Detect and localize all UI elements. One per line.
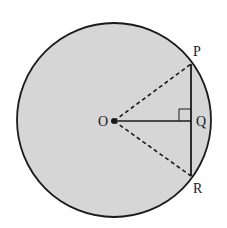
- circle-chord-diagram: O P Q R: [0, 0, 227, 228]
- label-o: O: [98, 114, 108, 129]
- label-q: Q: [196, 114, 206, 129]
- label-p: P: [193, 44, 201, 59]
- center-point: [111, 118, 117, 124]
- label-r: R: [193, 181, 203, 196]
